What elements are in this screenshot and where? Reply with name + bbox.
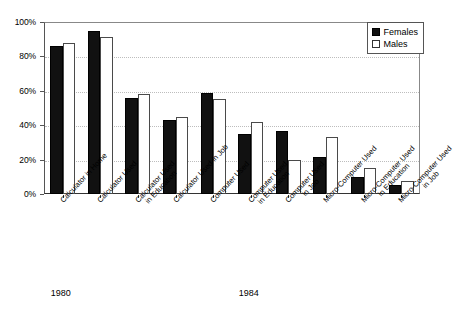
y-axis-tick-label: 20%	[19, 155, 36, 164]
legend: FemalesMales	[367, 22, 424, 54]
bar-males	[63, 43, 76, 194]
legend-item: Males	[372, 38, 418, 50]
bar-males	[100, 37, 113, 194]
bar-group	[44, 22, 82, 194]
bar-females	[50, 46, 63, 194]
bar-males	[138, 94, 151, 194]
x-axis: Calculator in HomeCalculator UsedCalcula…	[44, 195, 420, 275]
y-axis-tick-label: 0%	[24, 190, 36, 199]
y-axis-tick-label: 60%	[19, 86, 36, 95]
y-axis-tick-label: 80%	[19, 52, 36, 61]
legend-item: Females	[372, 26, 418, 38]
y-axis-tick-label: 40%	[19, 121, 36, 130]
y-axis: 0%20%40%60%80%100%	[0, 22, 40, 194]
legend-item-label: Males	[383, 39, 407, 49]
legend-item-label: Females	[383, 27, 418, 37]
bar-females	[351, 177, 364, 194]
bar-females	[201, 93, 214, 194]
bars-layer	[44, 22, 420, 194]
filled-square-icon	[372, 28, 380, 36]
y-axis-tick-label: 100%	[15, 18, 36, 27]
period-label: 1980	[51, 288, 71, 298]
empty-square-icon	[372, 40, 380, 48]
bar-females	[125, 98, 138, 194]
period-label: 1984	[239, 288, 259, 298]
